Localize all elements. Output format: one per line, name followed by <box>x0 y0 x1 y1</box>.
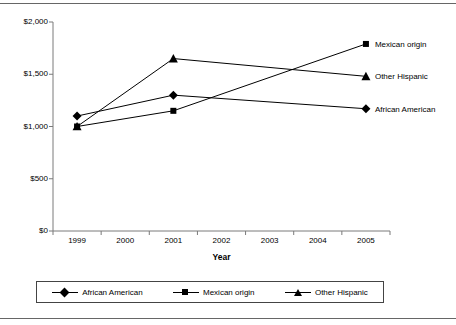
legend-key-triangle-icon <box>285 287 311 297</box>
series-line <box>77 59 366 127</box>
x-axis-tick-label: 1999 <box>53 236 101 245</box>
legend-item[interactable]: Mexican origin <box>173 287 255 297</box>
x-axis-tick-label: 2000 <box>101 236 149 245</box>
legend-key-square-icon <box>173 287 199 297</box>
data-point-marker <box>73 112 82 121</box>
series-end-label: Mexican origin <box>375 40 427 49</box>
chart-series <box>73 41 371 130</box>
data-point-marker <box>363 41 369 47</box>
data-point-marker <box>170 108 176 114</box>
series-end-label: African American <box>375 105 435 114</box>
chart-axes <box>49 22 390 235</box>
legend-key-diamond-icon <box>52 287 78 297</box>
x-axis-tick-label: 2003 <box>246 236 294 245</box>
legend-item[interactable]: Other Hispanic <box>285 287 368 297</box>
x-axis-tick-label: 2002 <box>197 236 245 245</box>
series-line <box>77 44 366 127</box>
legend-item-label: Mexican origin <box>203 288 255 297</box>
series-line <box>77 95 366 116</box>
legend-marker-square-icon <box>182 289 188 295</box>
legend-marker-diamond-icon <box>60 287 70 297</box>
x-axis-tick-labels: 1999200020012002200320042005 <box>53 236 390 250</box>
legend-item-label: African American <box>82 288 142 297</box>
legend-item-label: Other Hispanic <box>315 288 368 297</box>
x-axis-title: Year <box>53 252 390 262</box>
legend-marker-triangle-icon <box>294 289 302 296</box>
data-point-marker <box>169 54 178 62</box>
series-end-label: Other Hispanic <box>375 72 428 81</box>
chart-legend: African AmericanMexican originOther Hisp… <box>36 281 384 303</box>
chart-figure: $2,000$1,500$1,000$500$0 African America… <box>0 0 456 325</box>
x-axis-tick-label: 2005 <box>342 236 390 245</box>
x-axis-tick-label: 2001 <box>149 236 197 245</box>
data-point-marker <box>361 104 370 113</box>
legend-item[interactable]: African American <box>52 287 142 297</box>
data-point-marker <box>169 91 178 100</box>
x-axis-tick-label: 2004 <box>294 236 342 245</box>
